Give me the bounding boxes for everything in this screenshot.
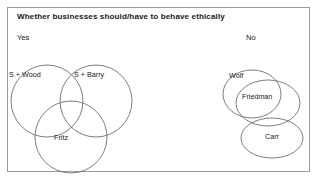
venn-label-fritz: Fritz (54, 133, 68, 142)
venn-label-wolf: Wolf (229, 71, 243, 80)
slide-canvas: Whether businesses should/have to behave… (0, 0, 317, 179)
venn-label-s-wood: S + Wood (9, 70, 41, 79)
branch-label-no: No (246, 33, 256, 42)
slide-frame (7, 7, 310, 172)
venn-label-carr: Carr (265, 132, 279, 141)
page-title: Whether businesses should/have to behave… (17, 12, 225, 21)
venn-label-friedman: Friedman (242, 92, 272, 101)
branch-label-yes: Yes (17, 33, 29, 42)
venn-label-s-barry: S + Barry (74, 70, 104, 79)
